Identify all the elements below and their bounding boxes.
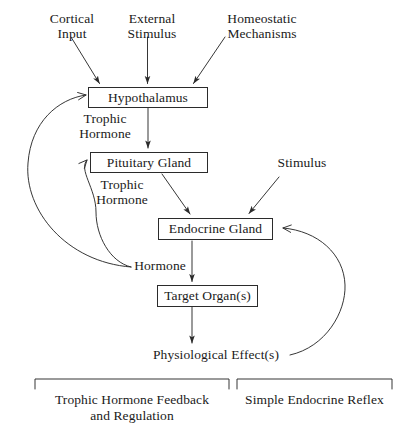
label-trophic-hormone-1: Trophic Hormone bbox=[66, 112, 144, 141]
label-physiological-effects: Physiological Effect(s) bbox=[146, 348, 286, 363]
arrow-homeostatic-mechanisms-to-hypothalamus bbox=[194, 37, 226, 84]
arrow-pituitary-to-endocrine-gland bbox=[162, 174, 190, 214]
bracket-trophic-hormone-feedback bbox=[35, 379, 229, 389]
bracket-simple-endocrine-reflex bbox=[237, 379, 392, 389]
label-external-stimulus: External Stimulus bbox=[104, 12, 200, 41]
node-endocrine-gland[interactable]: Endocrine Gland bbox=[158, 218, 273, 240]
label-homeostatic-mechanisms: Homeostatic Mechanisms bbox=[198, 12, 326, 41]
feedback-curve-effects-to-endocrine-gland bbox=[283, 228, 345, 355]
caption-simple-endocrine-reflex: Simple Endocrine Reflex bbox=[237, 392, 392, 408]
label-hormone: Hormone bbox=[133, 259, 187, 274]
arrow-cortical-input-to-hypothalamus bbox=[71, 37, 100, 84]
node-target-organ[interactable]: Target Organ(s) bbox=[157, 285, 258, 307]
caption-trophic-hormone-feedback: Trophic Hormone Feedback and Regulation bbox=[25, 392, 239, 424]
arrow-stimulus-to-endocrine-gland bbox=[249, 177, 279, 214]
label-trophic-hormone-2: Trophic Hormone bbox=[83, 178, 161, 207]
label-stimulus: Stimulus bbox=[271, 156, 333, 171]
node-hypothalamus[interactable]: Hypothalamus bbox=[88, 87, 208, 108]
node-pituitary-gland[interactable]: Pituitary Gland bbox=[90, 152, 208, 173]
endocrine-pathway-diagram: Cortical Input External Stimulus Homeost… bbox=[0, 0, 406, 435]
